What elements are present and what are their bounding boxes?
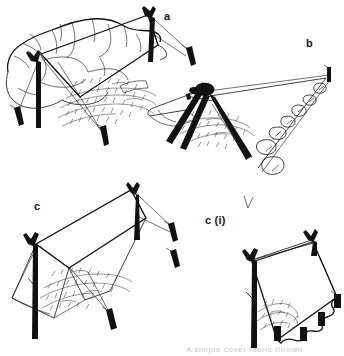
- peg-ci-2: [318, 312, 325, 326]
- peg-ci-4: [274, 326, 281, 341]
- forked-pole-a: [26, 50, 41, 128]
- tarpaulin-sheet-ci: [252, 240, 337, 343]
- ground-texture-ci: [256, 299, 298, 330]
- ground-texture-a: [58, 77, 156, 126]
- peg-a-3: [182, 45, 196, 66]
- panel-b-illustration: [148, 65, 331, 174]
- ridge-line-b: [208, 75, 329, 91]
- peg-ci-3: [300, 327, 307, 341]
- weighting-stones-b: [256, 83, 326, 174]
- figure-caption: A simple cover fabric thrown: [186, 345, 344, 354]
- peg-a-1: [96, 124, 109, 146]
- guy-lines-a: [18, 20, 190, 133]
- panel-ci-illustration: [166, 196, 341, 348]
- pointer-mark: [244, 196, 253, 208]
- shelter-diagram-illustration: [0, 0, 344, 356]
- panel-label-a: a: [164, 11, 170, 22]
- panel-label-b: b: [306, 38, 313, 49]
- peg-ci-loose: [166, 248, 180, 268]
- figure-root: a b c c (i) A simple cover fabric thrown: [0, 0, 344, 356]
- forked-pole-ci: [242, 248, 258, 348]
- peg-c-2: [102, 307, 117, 330]
- peg-a-2: [10, 105, 24, 126]
- support-pole-c-right: [126, 182, 140, 240]
- panel-label-c-i: c (i): [205, 215, 226, 226]
- tarpaulin-sheet-c: [12, 190, 146, 318]
- panel-label-c: c: [34, 201, 40, 212]
- forked-pole-c: [23, 232, 39, 339]
- peg-c-1: [164, 221, 178, 242]
